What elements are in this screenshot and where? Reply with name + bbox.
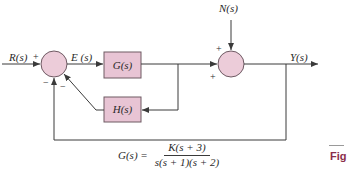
summing-junction-2 (218, 51, 244, 77)
disturbance-label: N(s) (219, 3, 238, 14)
transfer-function-denominator: s(s + 1)(s + 2) (151, 156, 223, 169)
transfer-function-equation: G(s) = K(s + 3) s(s + 1)(s + 2) (118, 142, 223, 168)
junction1-inner-feedback-sign: − (60, 82, 66, 92)
junction1-outer-feedback-sign: − (43, 78, 49, 88)
junction2-forward-sign: + (210, 72, 216, 82)
input-label: R(s) (9, 52, 27, 63)
junction2-disturbance-sign: + (216, 44, 222, 54)
transfer-function-lhs: G(s) = (118, 149, 148, 161)
junction1-input-sign: + (33, 52, 39, 62)
output-label: Y(s) (290, 52, 308, 63)
summing-junction-1 (41, 51, 67, 77)
inner-feedback-return (64, 74, 104, 110)
h-block-label: H(s) (104, 104, 141, 115)
error-label: E (s) (71, 52, 92, 63)
figure-caption-label: Fig (330, 151, 347, 162)
inner-feedback-pickoff (142, 64, 178, 110)
transfer-function-fraction: K(s + 3) s(s + 1)(s + 2) (151, 142, 223, 168)
caption-rule (329, 145, 344, 146)
g-block-label: G(s) (104, 60, 141, 71)
transfer-function-numerator: K(s + 3) (164, 142, 209, 156)
